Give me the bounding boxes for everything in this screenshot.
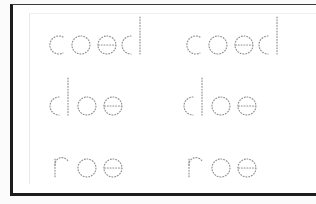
letter-d-icon	[182, 71, 208, 123]
traced-word-roe	[182, 133, 316, 185]
letter-e-icon	[94, 10, 120, 62]
letter-c-icon	[179, 10, 205, 62]
letter-e-icon	[234, 133, 260, 185]
letter-o-icon	[208, 71, 234, 123]
tracing-rows	[14, 4, 316, 194]
traced-word-roe	[48, 133, 182, 185]
row-3-right-word	[182, 133, 316, 185]
letter-o-icon	[208, 133, 234, 185]
letter-e-icon	[231, 10, 257, 62]
letter-d-icon	[48, 71, 74, 123]
letter-r-icon	[182, 133, 208, 185]
row-1-right-word	[179, 10, 316, 62]
traced-word-doe	[48, 71, 182, 123]
letter-o-icon	[74, 71, 100, 123]
worksheet-page	[0, 0, 316, 204]
letter-c-icon	[42, 10, 68, 62]
row-2-right-word	[182, 71, 316, 123]
letter-e-icon	[100, 71, 126, 123]
letter-d-icon	[120, 10, 146, 62]
table-row	[14, 71, 316, 132]
letter-r-icon	[48, 133, 74, 185]
row-3-left-word	[14, 133, 182, 185]
table-row	[14, 133, 316, 194]
letter-e-icon	[100, 133, 126, 185]
letter-e-icon	[234, 71, 260, 123]
table-row	[14, 10, 316, 71]
letter-o-icon	[68, 10, 94, 62]
row-2-left-word	[14, 71, 182, 123]
traced-word-doe	[182, 71, 316, 123]
traced-word-coed	[179, 10, 316, 62]
letter-o-icon	[74, 133, 100, 185]
letter-o-icon	[205, 10, 231, 62]
row-1-left-word	[14, 10, 179, 62]
traced-word-coed	[42, 10, 179, 62]
letter-d-icon	[257, 10, 283, 62]
